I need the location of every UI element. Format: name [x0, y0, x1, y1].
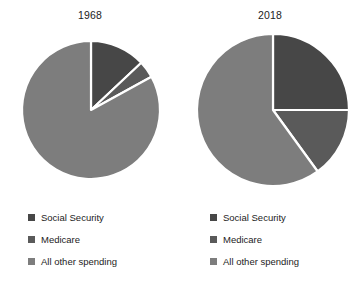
pie-slices-1968 [22, 41, 160, 179]
legend-1968: Social Security Medicare All other spend… [0, 206, 208, 272]
pie-slices-2018 [197, 34, 349, 186]
chart-panel-2018: 2018 Social Security Medicare All other … [180, 0, 360, 282]
pie-chart-figure: 1968 Social Security Medicare All other … [0, 0, 360, 282]
legend-swatch-icon-all-other-spending [210, 258, 217, 265]
legend-label-medicare: Medicare [223, 234, 262, 245]
legend-swatch-icon-all-other-spending [28, 258, 35, 265]
pie-container-2018 [180, 0, 360, 200]
pie-chart-2018 [180, 0, 360, 200]
legend-item-medicare: Medicare [210, 228, 360, 250]
chart-panel-1968: 1968 Social Security Medicare All other … [0, 0, 180, 282]
legend-swatch-icon-social-security [28, 214, 35, 221]
legend-item-social-security: Social Security [210, 206, 360, 228]
legend-swatch-icon-medicare [210, 236, 217, 243]
legend-label-all-other-spending: All other spending [41, 256, 117, 267]
legend-label-social-security: Social Security [223, 212, 286, 223]
pie-slice [273, 34, 349, 110]
legend-label-all-other-spending: All other spending [223, 256, 299, 267]
pie-container-1968 [0, 0, 180, 200]
legend-swatch-icon-medicare [28, 236, 35, 243]
legend-2018: Social Security Medicare All other spend… [180, 206, 360, 272]
pie-chart-1968 [0, 0, 180, 200]
legend-label-medicare: Medicare [41, 234, 80, 245]
legend-label-social-security: Social Security [41, 212, 104, 223]
legend-swatch-icon-social-security [210, 214, 217, 221]
legend-item-all-other-spending: All other spending [210, 250, 360, 272]
